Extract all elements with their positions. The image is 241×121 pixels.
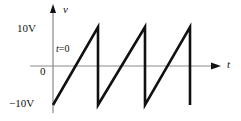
v-axis-label: v [63, 4, 68, 15]
y-axis-min-label: −10V [9, 98, 34, 109]
y-axis-max-label: 10V [17, 23, 36, 34]
t-axis-arrowhead [211, 63, 221, 70]
y-axis-zero-label: 0 [40, 66, 46, 77]
sawtooth-waveform-figure: v t 10V 0 −10V t=0 [0, 0, 241, 121]
t-zero-value: =0 [59, 43, 70, 54]
t-axis-label: t [227, 59, 230, 70]
plot-canvas [0, 0, 241, 121]
t-zero-annotation: t=0 [56, 44, 69, 54]
v-axis-arrowhead [50, 4, 56, 13]
